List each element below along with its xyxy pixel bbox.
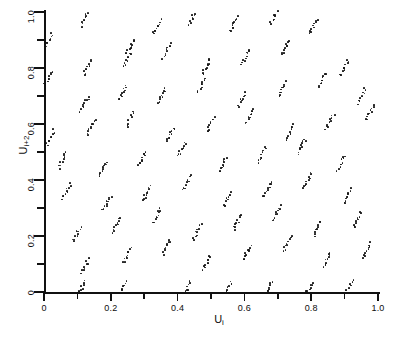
data-point (241, 62, 243, 64)
data-point (221, 167, 223, 169)
data-point (248, 50, 250, 52)
data-point (239, 216, 241, 218)
data-point (362, 257, 364, 259)
data-point (124, 90, 126, 92)
data-point (169, 45, 171, 47)
data-point (262, 150, 264, 152)
data-point (270, 183, 272, 185)
data-point (163, 254, 165, 256)
x-tick (344, 292, 346, 299)
data-point (373, 106, 375, 108)
data-point (83, 269, 85, 271)
y-tick-label: 0.8 (26, 66, 36, 79)
data-point (341, 158, 343, 160)
data-point (214, 116, 216, 118)
data-point (128, 120, 130, 122)
data-point (154, 30, 156, 32)
data-point (157, 25, 159, 27)
data-point (305, 140, 307, 142)
data-point (243, 96, 245, 98)
data-point (363, 87, 365, 89)
data-point (316, 228, 318, 230)
data-point (249, 117, 251, 119)
data-point (286, 45, 288, 47)
data-point (168, 137, 170, 139)
data-point (210, 122, 212, 124)
data-point (173, 128, 175, 130)
x-tick (77, 292, 79, 299)
data-point (159, 24, 161, 26)
data-point (226, 197, 228, 199)
x-tick-label: 1.0 (358, 303, 398, 313)
data-point (51, 36, 53, 38)
data-point (80, 273, 82, 275)
data-point (188, 24, 190, 26)
data-point (339, 74, 341, 76)
data-point (166, 50, 168, 52)
data-point (359, 97, 361, 99)
data-point (141, 160, 143, 162)
data-point (137, 164, 139, 166)
data-point (268, 288, 270, 290)
data-point (192, 18, 194, 20)
data-point (125, 52, 127, 54)
data-point (76, 230, 78, 232)
data-point (85, 73, 87, 75)
data-point (248, 49, 250, 51)
data-point (124, 62, 126, 64)
data-point (152, 222, 154, 224)
data-point (48, 140, 50, 142)
data-point (299, 148, 301, 150)
data-point (157, 25, 159, 27)
data-point (83, 282, 85, 284)
data-point (246, 56, 248, 58)
data-point (81, 226, 83, 228)
data-point (169, 137, 171, 139)
y-axis-title: Ui+2 (17, 115, 31, 175)
data-point (252, 108, 254, 110)
data-point (207, 126, 209, 128)
data-point (281, 52, 283, 54)
data-point (188, 284, 190, 286)
data-point (240, 64, 242, 66)
data-point (182, 148, 184, 150)
data-point (103, 208, 105, 210)
data-point (168, 241, 170, 243)
x-tick (244, 292, 246, 301)
data-point (225, 200, 227, 202)
data-point (153, 33, 155, 35)
data-point (86, 99, 88, 101)
data-point (287, 241, 289, 243)
data-point (248, 118, 250, 120)
data-point (273, 19, 275, 21)
data-point (310, 172, 312, 174)
x-tick-label: 0.8 (291, 303, 331, 313)
data-point (147, 191, 149, 193)
data-point (239, 215, 241, 217)
data-point (313, 27, 315, 29)
data-point (124, 261, 126, 263)
data-point (360, 212, 362, 214)
data-point (229, 194, 231, 196)
data-point (88, 96, 90, 98)
data-point (280, 204, 282, 206)
data-point (275, 211, 277, 213)
data-point (196, 235, 198, 237)
data-point (275, 213, 277, 215)
data-point (274, 15, 276, 17)
data-point (349, 283, 351, 285)
data-point (85, 260, 87, 262)
y-axis-line (44, 10, 46, 294)
scatter-plot-figure: 00.20.40.60.81.0 00.20.40.60.81.0 Ui+2 U… (0, 0, 398, 338)
data-point (106, 164, 108, 166)
data-point (305, 181, 307, 183)
data-point (189, 20, 191, 22)
data-point (291, 235, 293, 237)
data-point (362, 95, 364, 97)
data-point (234, 229, 236, 231)
data-point (166, 243, 168, 245)
data-point (63, 158, 65, 160)
data-point (367, 113, 369, 115)
data-point (310, 287, 312, 289)
data-point (118, 220, 120, 222)
